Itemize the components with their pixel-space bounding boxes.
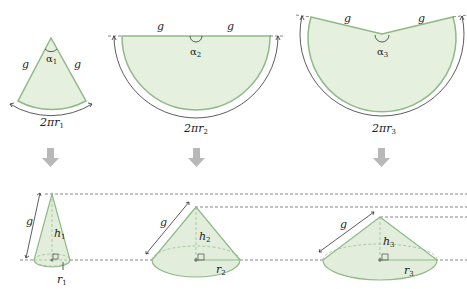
cone-net-diagram: g g α1 2πr1 g g α2 2πr2 g g α3 2πr3: [0, 0, 467, 289]
cone-3-slant: g: [340, 218, 347, 231]
sector-3-slant-right: g: [418, 12, 425, 25]
cone-2-slant: g: [160, 216, 167, 229]
sector-2-slant-right: g: [227, 20, 234, 33]
sector-3-slant-left: g: [344, 12, 351, 25]
sector-1-slant-right: g: [74, 58, 81, 71]
cone-1-height: h: [54, 227, 61, 240]
cone-1-slant: g: [26, 215, 33, 228]
down-arrow-icon: [42, 148, 59, 167]
sector-3: g g α3 2πr3: [296, 12, 467, 136]
sector-2: g g α2 2πr2: [108, 20, 284, 136]
down-arrow-icon: [373, 148, 390, 167]
svg-text:2πr2: 2πr2: [183, 122, 208, 136]
sector-1-slant-left: g: [22, 58, 29, 71]
svg-text:2πr3: 2πr3: [371, 122, 396, 136]
cone-2-height: h: [199, 230, 206, 243]
down-arrow-icon: [188, 148, 205, 167]
svg-text:h1: h1: [54, 227, 66, 241]
sector-1: g g α1 2πr1: [10, 38, 92, 130]
sector-1-arc-label: 2πr: [39, 116, 60, 129]
cone-2: g h2 r2: [146, 202, 240, 277]
down-arrows: [42, 148, 390, 167]
cone-3-height: h: [383, 235, 390, 248]
sector-2-arc-label: 2πr: [183, 122, 204, 135]
svg-text:2πr1: 2πr1: [39, 116, 64, 130]
cone-3: g h3 r3: [319, 212, 437, 280]
cone-1: g h1 r1: [25, 193, 70, 287]
svg-text:r1: r1: [57, 273, 67, 287]
sector-2-slant-left: g: [157, 20, 164, 33]
sector-3-arc-label: 2πr: [371, 122, 392, 135]
